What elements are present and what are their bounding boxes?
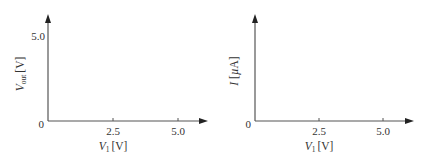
y-axis-label: I [µA] xyxy=(228,56,241,86)
origin-label: 0 xyxy=(246,118,252,130)
origin-label: 0 xyxy=(39,118,45,130)
x-axis-arrow-icon xyxy=(199,118,208,124)
y-tick-label: 5.0 xyxy=(31,30,45,42)
x-tick-label: 5.0 xyxy=(171,125,185,137)
figure: 0 2.5 5.0 5.0 V1[V] Vout[V] 0 2.5 5.0 V1… xyxy=(0,0,429,162)
chart-current-vs-v1: 0 2.5 5.0 V1[V] I [µA] xyxy=(228,14,414,154)
y-axis-label: Vout[V] xyxy=(14,57,28,92)
x-tick-label: 2.5 xyxy=(106,125,120,137)
x-axis-arrow-icon xyxy=(405,118,414,124)
x-axis-label: V1[V] xyxy=(99,140,128,154)
x-tick-label: 5.0 xyxy=(376,125,390,137)
x-axis-label: V1[V] xyxy=(305,140,334,154)
y-axis-arrow-icon xyxy=(45,14,51,23)
chart-vout-vs-v1: 0 2.5 5.0 5.0 V1[V] Vout[V] xyxy=(14,14,208,154)
x-tick-label: 2.5 xyxy=(312,125,326,137)
y-axis-arrow-icon xyxy=(252,14,258,23)
